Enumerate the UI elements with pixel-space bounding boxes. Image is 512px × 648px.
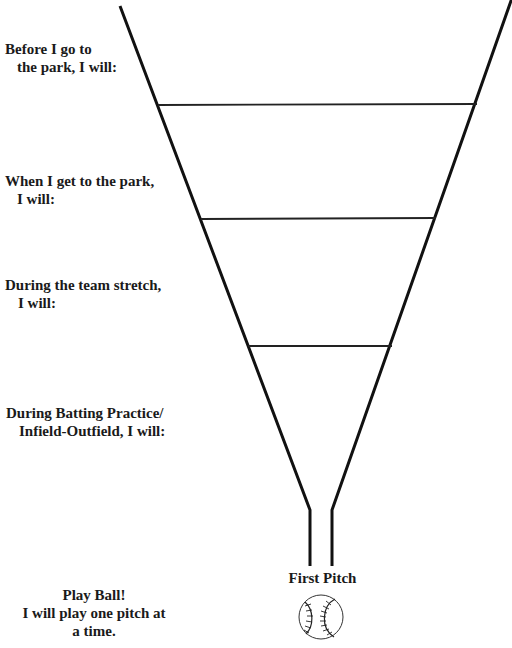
play-ball-line: a time.	[6, 622, 182, 640]
stage-label-line: the park, I will:	[5, 58, 117, 76]
stage-label-line: I will:	[5, 190, 154, 208]
first-pitch-label: First Pitch	[285, 569, 360, 587]
baseball-icon	[299, 595, 343, 639]
stage-label-line: I will:	[5, 294, 161, 312]
stage-label-arrive-park: When I get to the park, I will:	[5, 172, 154, 208]
stage-label-batting-practice: During Batting Practice/ Infield-Outfiel…	[6, 404, 165, 440]
funnel-right-edge	[332, 0, 512, 566]
stage-label-before-park: Before I go to the park, I will:	[5, 40, 117, 76]
stage-label-line: Before I go to	[5, 41, 92, 57]
stage-label-line: Infield-Outfield, I will:	[6, 422, 165, 440]
play-ball-line: I will play one pitch at	[6, 604, 182, 622]
stage-label-line: During the team stretch,	[5, 277, 161, 293]
funnel-diagram	[0, 0, 512, 648]
stage-label-line: When I get to the park,	[5, 173, 154, 189]
stage-divider-2	[201, 218, 436, 219]
stage-label-team-stretch: During the team stretch, I will:	[5, 276, 161, 312]
play-ball-label: Play Ball! I will play one pitch at a ti…	[6, 586, 182, 640]
stage-divider-1	[158, 104, 477, 105]
play-ball-title: Play Ball!	[6, 586, 182, 604]
stage-label-line: During Batting Practice/	[6, 405, 163, 421]
